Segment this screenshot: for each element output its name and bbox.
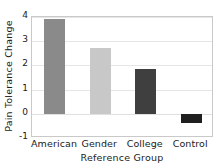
x-axis-tick-labels: AmericanGenderCollegeControl — [31, 138, 213, 151]
bar-college — [135, 69, 156, 114]
bar-control — [181, 114, 202, 123]
plot-area — [31, 16, 213, 137]
y-tick-label-4: 4 — [14, 11, 28, 20]
y-tick-label-2: 2 — [14, 59, 28, 68]
y-tick-label-0: 0 — [14, 108, 28, 117]
y-axis-tick-labels: 43210-1 — [14, 0, 28, 168]
x-axis-title: Reference Group — [31, 152, 213, 164]
x-tick-label-college: College — [122, 138, 168, 150]
bar-american — [44, 19, 65, 114]
bars-group — [32, 17, 212, 136]
y-tick-label-1: 1 — [14, 84, 28, 93]
y-tick-label-3: 3 — [14, 35, 28, 44]
y-tick-label--1: -1 — [14, 132, 28, 141]
bar-gender — [90, 48, 111, 114]
x-tick-label-american: American — [31, 138, 77, 150]
x-tick-label-control: Control — [168, 138, 214, 150]
x-tick-label-gender: Gender — [77, 138, 123, 150]
bar-chart: Pain Tolerance Change 43210-1 AmericanGe… — [0, 0, 221, 168]
